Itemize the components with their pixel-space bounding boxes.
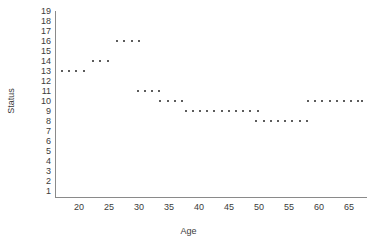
data-point — [174, 100, 176, 102]
data-point — [255, 120, 257, 122]
y-axis-tick: 8 — [30, 117, 51, 126]
y-axis-tick-label: 4 — [30, 157, 51, 166]
data-point — [199, 110, 201, 112]
y-axis-tick-label: 17 — [30, 27, 51, 36]
y-axis-tick: 19 — [30, 7, 51, 16]
data-point — [107, 60, 109, 62]
data-point — [61, 70, 63, 72]
x-axis-tick-label: 30 — [127, 203, 151, 212]
y-axis-tick: 16 — [30, 37, 51, 46]
data-point — [228, 110, 230, 112]
y-axis-tick-label: 15 — [30, 47, 51, 56]
data-point — [158, 90, 160, 92]
data-point — [307, 100, 309, 102]
data-point — [213, 110, 215, 112]
x-axis-tick-label: 25 — [97, 203, 121, 212]
data-point — [99, 60, 101, 62]
y-axis-tick-label: 2 — [30, 177, 51, 186]
y-axis-tick: 17 — [30, 27, 51, 36]
data-point — [123, 40, 125, 42]
y-axis-tick-label: 13 — [30, 67, 51, 76]
y-axis-tick: 13 — [30, 67, 51, 76]
data-point — [314, 100, 316, 102]
data-point — [343, 100, 345, 102]
y-axis-tick: 6 — [30, 137, 51, 146]
y-axis-tick: 2 — [30, 177, 51, 186]
y-axis-tick: 11 — [30, 87, 51, 96]
data-point — [257, 110, 259, 112]
data-point — [185, 110, 187, 112]
data-point — [75, 70, 77, 72]
y-axis-tick-label: 1 — [30, 187, 51, 196]
y-axis-tick: 1 — [30, 187, 51, 196]
y-axis-tick-label: 10 — [30, 97, 51, 106]
data-point — [361, 100, 363, 102]
y-axis-tick: 9 — [30, 107, 51, 116]
data-point — [83, 70, 85, 72]
data-point — [329, 100, 331, 102]
x-axis-tick-label: 35 — [157, 203, 181, 212]
data-point — [336, 100, 338, 102]
data-point — [167, 100, 169, 102]
y-axis-title: Status — [6, 71, 16, 131]
y-axis-tick-label: 18 — [30, 17, 51, 26]
y-axis-tick: 3 — [30, 167, 51, 176]
y-axis-tick: 14 — [30, 57, 51, 66]
y-axis-tick-label: 19 — [30, 7, 51, 16]
data-point — [206, 110, 208, 112]
x-axis-tick-label: 55 — [277, 203, 301, 212]
data-point — [144, 90, 146, 92]
x-axis-tick-label: 40 — [187, 203, 211, 212]
data-point — [181, 100, 183, 102]
data-point — [68, 70, 70, 72]
data-point — [277, 120, 279, 122]
y-axis-tick-label: 8 — [30, 117, 51, 126]
y-axis-tick-label: 9 — [30, 107, 51, 116]
x-axis-tick-label: 20 — [67, 203, 91, 212]
y-axis-tick: 7 — [30, 127, 51, 136]
x-axis-tick-label: 45 — [217, 203, 241, 212]
data-point — [131, 40, 133, 42]
x-axis-title: Age — [0, 226, 377, 236]
y-axis-tick-label: 11 — [30, 87, 51, 96]
data-point — [242, 110, 244, 112]
scatter-plot: 12345678910111213141516171819 2025303540… — [0, 0, 377, 242]
data-point — [192, 110, 194, 112]
data-point — [235, 110, 237, 112]
data-point — [151, 90, 153, 92]
data-point — [270, 120, 272, 122]
y-axis-tick: 15 — [30, 47, 51, 56]
data-point — [263, 120, 265, 122]
data-point — [138, 40, 140, 42]
data-point — [350, 100, 352, 102]
data-point — [357, 100, 359, 102]
data-point — [221, 110, 223, 112]
y-axis-tick-label: 14 — [30, 57, 51, 66]
y-axis-tick-label: 12 — [30, 77, 51, 86]
x-axis-tick-label: 60 — [307, 203, 331, 212]
y-axis-tick-label: 3 — [30, 167, 51, 176]
chart-page: 12345678910111213141516171819 2025303540… — [0, 0, 377, 242]
data-point — [92, 60, 94, 62]
y-axis-tick-label: 6 — [30, 137, 51, 146]
y-axis-tick-label: 5 — [30, 147, 51, 156]
data-point — [306, 120, 308, 122]
x-axis-tick-label: 65 — [337, 203, 361, 212]
y-axis-tick: 4 — [30, 157, 51, 166]
y-axis-line — [55, 11, 56, 198]
y-axis-tick-label: 7 — [30, 127, 51, 136]
data-point — [137, 90, 139, 92]
x-axis-tick-label: 50 — [247, 203, 271, 212]
data-point — [159, 100, 161, 102]
data-point — [116, 40, 118, 42]
y-axis-tick-label: 16 — [30, 37, 51, 46]
data-point — [249, 110, 251, 112]
data-point — [291, 120, 293, 122]
x-axis-line — [55, 197, 367, 198]
y-axis-tick: 10 — [30, 97, 51, 106]
data-point — [284, 120, 286, 122]
y-axis-tick: 5 — [30, 147, 51, 156]
data-point — [299, 120, 301, 122]
y-axis-tick: 18 — [30, 17, 51, 26]
data-point — [321, 100, 323, 102]
